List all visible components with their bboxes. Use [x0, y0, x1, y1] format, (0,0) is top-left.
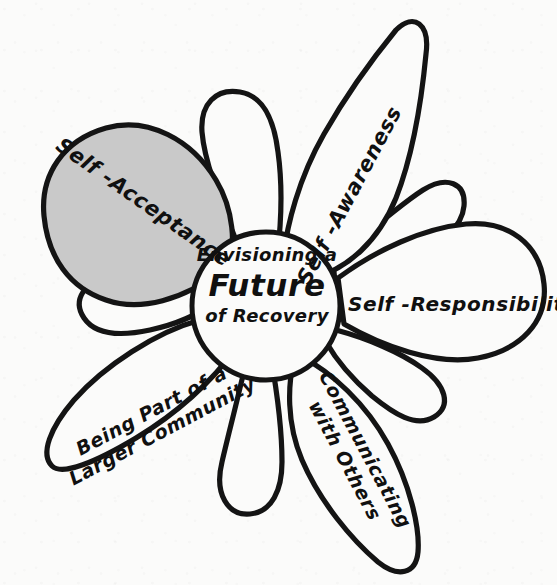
- flower-graphic: [0, 0, 557, 585]
- center-hub-circle[interactable]: [192, 232, 340, 380]
- diagram-canvas: Envisioning a Future of Recovery Self -A…: [0, 0, 557, 585]
